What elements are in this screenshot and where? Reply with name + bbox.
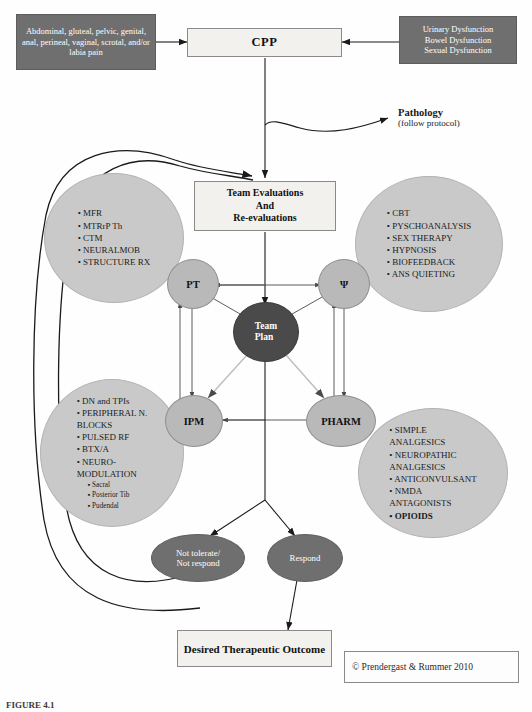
list-item: NEURO- MODULATION — [77, 456, 148, 480]
list-item: BIOFEEDBACK — [387, 256, 472, 268]
list-item: CTM — [78, 232, 151, 244]
figure-caption-number: FIGURE 4.1 — [6, 700, 55, 710]
list-item: HYPNOSIS — [387, 244, 472, 256]
respond-label: Respond — [290, 553, 321, 564]
pathology-title: Pathology — [398, 107, 460, 118]
cpp-box: CPP — [187, 28, 342, 57]
role-label-psych: Ψ — [340, 279, 348, 290]
right-dysfunctions-text: Urinary Dysfunction Bowel Dysfunction Se… — [423, 24, 494, 56]
ipm-interventions-bubble: DN and TPIs PERIPHERAL N. BLOCKS PULSED … — [40, 379, 184, 527]
team-evaluations-box: Team Evaluations And Re-evaluations — [194, 181, 336, 231]
list-item: Pudendal — [77, 501, 148, 512]
role-label-ipm: IPM — [184, 416, 204, 427]
role-node-pharm: PHARM — [306, 395, 376, 447]
desired-outcome-label: Desired Therapeutic Outcome — [184, 643, 325, 655]
psych-interventions-list: CBT PYSCHOANALYSIS SEX THERAPY HYPNOSIS … — [387, 207, 472, 280]
pharm-interventions-list: SIMPLE ANALGESICS NEUROPATHIC ANALGESICS… — [389, 424, 476, 522]
list-item: ANTICONVULSANT — [389, 473, 476, 485]
list-item: OPIOIDS — [389, 510, 476, 522]
role-label-pharm: PHARM — [321, 416, 361, 427]
list-item: PULSED RF — [77, 431, 148, 443]
copyright-box: © Prendergast & Rummer 2010 — [344, 651, 519, 683]
list-item: SEX THERAPY — [387, 232, 472, 244]
role-node-pt: PT — [167, 259, 219, 309]
list-item: NMDA ANTAGONISTS — [389, 485, 476, 509]
list-item: ANS QUIETING — [387, 268, 472, 280]
pathology-label: Pathology (follow protocol) — [398, 107, 460, 128]
role-label-pt: PT — [186, 279, 199, 290]
cpp-label: CPP — [252, 35, 278, 50]
list-item: MFR — [78, 207, 151, 219]
diagram-canvas: Abdominal, gluteal, pelvic, genital, ana… — [0, 0, 532, 712]
role-node-ipm: IPM — [165, 395, 223, 447]
figure-caption: FIGURE 4.1 — [6, 700, 55, 710]
pathology-sub: (follow protocol) — [398, 118, 460, 128]
right-dysfunctions-box: Urinary Dysfunction Bowel Dysfunction Se… — [399, 16, 517, 64]
list-item: STRUCTURE RX — [78, 256, 151, 268]
pt-interventions-list: MFR MTRrP Th CTM NEURALMOB STRUCTURE RX — [78, 207, 151, 268]
pharm-interventions-bubble: SIMPLE ANALGESICS NEUROPATHIC ANALGESICS… — [358, 408, 508, 538]
list-item: NEURALMOB — [78, 244, 151, 256]
list-item: SIMPLE ANALGESICS — [389, 424, 476, 448]
copyright-text: © Prendergast & Rummer 2010 — [352, 662, 473, 672]
not-respond-label: Not tolerate/ Not respond — [176, 548, 220, 569]
list-item: Sacral — [77, 480, 148, 491]
desired-outcome-box: Desired Therapeutic Outcome — [177, 630, 332, 667]
list-item: BTX/A — [77, 443, 148, 455]
team-evaluations-text: Team Evaluations And Re-evaluations — [227, 187, 304, 225]
list-item: Posterior Tib — [77, 490, 148, 501]
list-item: CBT — [387, 207, 472, 219]
role-node-psych: Ψ — [318, 259, 370, 309]
list-item: PYSCHOANALYSIS — [387, 220, 472, 232]
ipm-interventions-list: DN and TPIs PERIPHERAL N. BLOCKS PULSED … — [77, 395, 148, 512]
left-symptoms-text: Abdominal, gluteal, pelvic, genital, ana… — [21, 26, 151, 58]
pt-interventions-bubble: MFR MTRrP Th CTM NEURALMOB STRUCTURE RX — [44, 173, 184, 303]
psych-interventions-bubble: CBT PYSCHOANALYSIS SEX THERAPY HYPNOSIS … — [355, 176, 503, 312]
left-symptoms-box: Abdominal, gluteal, pelvic, genital, ana… — [16, 14, 156, 70]
list-item: NEUROPATHIC ANALGESICS — [389, 449, 476, 473]
list-item: MTRrP Th — [78, 220, 151, 232]
list-item: DN and TPIs — [77, 395, 148, 407]
team-plan-node: Team Plan — [233, 302, 299, 362]
not-respond-node: Not tolerate/ Not respond — [151, 534, 245, 582]
list-item: PERIPHERAL N. BLOCKS — [77, 407, 148, 431]
team-plan-label: Team Plan — [255, 321, 277, 344]
respond-node: Respond — [267, 534, 343, 582]
